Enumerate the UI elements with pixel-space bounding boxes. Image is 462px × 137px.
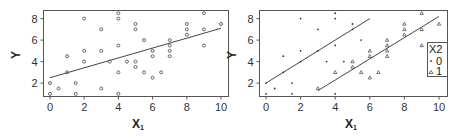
y-tick-label: 2 bbox=[31, 77, 37, 89]
dot-marker-icon bbox=[300, 50, 302, 52]
dot-marker-icon bbox=[352, 28, 354, 30]
triangle-marker-icon bbox=[385, 38, 388, 41]
y-tick-label: 8 bbox=[247, 13, 253, 25]
triangle-marker-icon bbox=[403, 28, 406, 31]
regression-line bbox=[50, 28, 221, 77]
legend-entry-1: 1 bbox=[436, 65, 442, 77]
circle-marker-icon bbox=[49, 92, 52, 95]
triangle-marker-icon bbox=[368, 76, 371, 79]
triangle-marker-icon bbox=[368, 54, 371, 57]
left-y-axis-ticks: 2468 bbox=[31, 13, 43, 90]
circle-marker-icon bbox=[100, 49, 103, 52]
dot-marker-icon bbox=[300, 61, 302, 63]
right-x-axis-title-main: X bbox=[345, 117, 353, 131]
dot-marker-icon bbox=[343, 61, 345, 63]
circle-marker-icon bbox=[117, 92, 120, 95]
chart-canvas: 0246810 2468 Y X1 0246810 2468 Y X1 X2 0… bbox=[0, 0, 462, 137]
dot-marker-icon bbox=[300, 18, 302, 20]
dot-marker-icon bbox=[334, 18, 336, 20]
right-scatter-plot: 0246810 2468 Y X1 X2 0 1 bbox=[225, 11, 448, 132]
circle-marker-icon bbox=[151, 55, 154, 58]
triangle-marker-icon bbox=[403, 22, 406, 25]
circle-marker-icon bbox=[220, 22, 223, 25]
circle-marker-icon bbox=[57, 87, 60, 90]
circle-marker-icon bbox=[83, 17, 86, 20]
left-plot-frame bbox=[44, 11, 229, 97]
circle-marker-icon bbox=[134, 60, 137, 63]
circle-marker-icon bbox=[83, 49, 86, 52]
triangle-marker-icon bbox=[385, 44, 388, 47]
circle-marker-icon bbox=[168, 39, 171, 42]
triangle-marker-icon bbox=[385, 54, 388, 57]
x-tick-label: 10 bbox=[433, 101, 445, 113]
dot-marker-icon bbox=[282, 71, 284, 73]
y-tick-label: 2 bbox=[247, 77, 253, 89]
circle-marker-icon bbox=[168, 55, 171, 58]
regression-line bbox=[318, 16, 439, 90]
left-scatter-plot: 0246810 2468 Y X1 bbox=[9, 11, 229, 132]
circle-marker-icon bbox=[168, 44, 171, 47]
x-tick-label: 2 bbox=[298, 101, 304, 113]
circle-marker-icon bbox=[151, 49, 154, 52]
circle-marker-icon bbox=[134, 65, 137, 68]
circle-marker-icon bbox=[74, 82, 77, 85]
right-x-axis-ticks: 0246810 bbox=[263, 97, 445, 113]
dot-marker-icon bbox=[334, 12, 336, 14]
dot-marker-icon bbox=[274, 88, 276, 90]
circle-marker-icon bbox=[83, 60, 86, 63]
dot-marker-icon bbox=[265, 82, 267, 84]
circle-marker-icon bbox=[49, 82, 52, 85]
triangle-marker-icon bbox=[351, 65, 354, 68]
circle-marker-icon bbox=[74, 92, 77, 95]
left-y-axis-title: Y bbox=[9, 51, 23, 59]
x-tick-label: 10 bbox=[215, 101, 227, 113]
dot-marker-icon bbox=[317, 28, 319, 30]
x-tick-label: 4 bbox=[332, 101, 338, 113]
y-tick-label: 4 bbox=[31, 56, 37, 68]
right-x-axis-title: X1 bbox=[345, 117, 357, 131]
triangle-marker-icon bbox=[403, 33, 406, 36]
dot-marker-icon bbox=[317, 50, 319, 52]
circle-marker-icon bbox=[100, 28, 103, 31]
triangle-marker-icon bbox=[316, 87, 319, 90]
circle-marker-icon bbox=[202, 12, 205, 15]
y-tick-label: 4 bbox=[247, 56, 253, 68]
x-tick-label: 8 bbox=[184, 101, 190, 113]
legend: X2 0 1 bbox=[428, 43, 448, 78]
circle-marker-icon bbox=[202, 44, 205, 47]
y-tick-label: 6 bbox=[31, 34, 37, 46]
right-plot-frame bbox=[260, 11, 448, 97]
x-tick-label: 6 bbox=[367, 101, 373, 113]
legend-dot-marker-icon bbox=[430, 60, 432, 62]
right-regression-lines bbox=[266, 16, 439, 90]
circle-marker-icon bbox=[185, 28, 188, 31]
triangle-marker-icon bbox=[351, 60, 354, 63]
circle-marker-icon bbox=[185, 22, 188, 25]
legend-title: X2 bbox=[429, 43, 442, 55]
triangle-marker-icon bbox=[377, 71, 380, 74]
left-x-axis-ticks: 0246810 bbox=[47, 97, 227, 113]
left-regression-line bbox=[50, 28, 221, 77]
circle-marker-icon bbox=[185, 33, 188, 36]
left-data-points bbox=[49, 12, 223, 96]
dot-marker-icon bbox=[282, 55, 284, 57]
y-tick-label: 8 bbox=[31, 13, 37, 25]
right-y-axis-ticks: 2468 bbox=[247, 13, 259, 90]
circle-marker-icon bbox=[117, 44, 120, 47]
left-x-axis-title-main: X bbox=[132, 117, 140, 131]
circle-marker-icon bbox=[168, 49, 171, 52]
circle-marker-icon bbox=[125, 60, 128, 63]
dot-marker-icon bbox=[334, 93, 336, 95]
dot-marker-icon bbox=[291, 93, 293, 95]
left-x-axis-title: X1 bbox=[132, 117, 144, 131]
circle-marker-icon bbox=[134, 22, 137, 25]
circle-marker-icon bbox=[66, 55, 69, 58]
triangle-marker-icon bbox=[437, 22, 440, 25]
right-x-axis-title-subscript: 1 bbox=[353, 124, 357, 131]
circle-marker-icon bbox=[143, 39, 146, 42]
triangle-marker-icon bbox=[359, 71, 362, 74]
circle-marker-icon bbox=[117, 17, 120, 20]
x-tick-label: 8 bbox=[401, 101, 407, 113]
dot-marker-icon bbox=[265, 93, 267, 95]
y-tick-label: 6 bbox=[247, 34, 253, 46]
